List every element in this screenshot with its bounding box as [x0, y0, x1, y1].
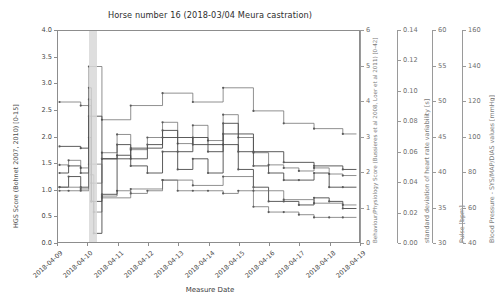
series-line: [60, 67, 357, 134]
data-point: [80, 104, 82, 106]
data-point: [252, 151, 254, 153]
data-point: [267, 200, 269, 202]
data-point: [283, 211, 285, 213]
pulse-tick-label: 30: [438, 239, 446, 247]
hrv-tick-label: 0.12: [403, 56, 418, 64]
plot-area: [57, 30, 360, 243]
behaviour-tick-label: 2: [366, 168, 370, 176]
data-point: [313, 165, 315, 167]
data-point: [298, 214, 300, 216]
data-point: [313, 216, 315, 218]
hrv-tick-mark: [398, 30, 401, 31]
data-point: [192, 124, 194, 126]
bloodpressure-tick-label: 140: [468, 62, 481, 70]
data-point: [177, 151, 179, 153]
data-point: [130, 188, 132, 190]
data-point: [313, 167, 315, 169]
behaviour-tick-mark: [361, 66, 364, 67]
date-tick-mark: [299, 243, 300, 246]
hrv-tick-label: 0.02: [403, 209, 418, 217]
bloodpressure-tick-label: 80: [468, 168, 476, 176]
behaviour-tick-mark: [361, 30, 364, 31]
hrv-tick-label: 0.10: [403, 87, 418, 95]
data-point: [237, 168, 239, 170]
data-point: [267, 211, 269, 213]
hgs-tick-label: 0.0: [42, 239, 53, 247]
data-point: [161, 151, 163, 153]
behaviour-tick-mark: [361, 208, 364, 209]
behaviour-tick-label: 1: [366, 204, 370, 212]
data-point: [68, 175, 70, 177]
date-tick-mark: [118, 243, 119, 246]
data-point: [130, 104, 132, 106]
data-point: [177, 168, 179, 170]
data-point: [283, 161, 285, 163]
date-tick-mark: [87, 243, 88, 246]
hgs-tick-mark: [54, 83, 57, 84]
data-point: [146, 144, 148, 146]
bloodpressure-axis-label: Blood Pressure - SYS/MAP/DIAS values [mm…: [488, 95, 495, 243]
hgs-tick-mark: [54, 216, 57, 217]
bloodpressure-tick-label: 160: [468, 26, 481, 34]
data-point: [146, 172, 148, 174]
data-point: [161, 136, 163, 138]
pulse-tick-label: 35: [438, 204, 446, 212]
bloodpressure-tick-mark: [463, 208, 466, 209]
data-point: [252, 206, 254, 208]
data-point: [222, 87, 224, 89]
data-point: [101, 197, 103, 199]
data-point: [237, 151, 239, 153]
date-tick-mark: [360, 243, 361, 246]
behaviour-tick-label: 6: [366, 26, 370, 34]
data-point: [192, 190, 194, 192]
data-point: [58, 164, 60, 166]
data-point: [222, 122, 224, 124]
data-point: [58, 101, 60, 103]
data-point: [342, 204, 344, 206]
behaviour-tick-mark: [361, 243, 364, 244]
hgs-tick-label: 2.5: [42, 106, 53, 114]
hgs-tick-label: 2.0: [42, 133, 53, 141]
hgs-tick-label: 1.0: [42, 186, 53, 194]
data-point: [313, 202, 315, 204]
chart-title: Horse number 16 (2018-03/04 Meura castra…: [0, 10, 420, 20]
data-point: [58, 172, 60, 174]
data-point: [80, 147, 82, 149]
hrv-tick-mark: [398, 243, 401, 244]
data-point: [101, 158, 103, 160]
hrv-tick-label: 0.14: [403, 26, 418, 34]
data-point: [58, 190, 60, 192]
hrv-tick-mark: [398, 60, 401, 61]
hgs-tick-label: 1.5: [42, 159, 53, 167]
data-point: [342, 186, 344, 188]
hrv-tick-mark: [398, 91, 401, 92]
data-point: [130, 165, 132, 167]
pulse-tick-label: 50: [438, 97, 446, 105]
date-tick-mark: [239, 243, 240, 246]
plot-clip: [58, 31, 359, 242]
hgs-axis-label: HGS Score (Bohnet 2007, 2010) [0-15]: [12, 104, 20, 228]
data-point: [298, 170, 300, 172]
data-point: [80, 188, 82, 190]
pulse-tick-mark: [433, 208, 436, 209]
hrv-tick-label: 0.08: [403, 117, 418, 125]
data-point: [222, 133, 224, 135]
bloodpressure-tick-label: 120: [468, 97, 481, 105]
x-axis-title: Measure Date: [150, 286, 270, 294]
bloodpressure-tick-mark: [463, 243, 466, 244]
date-tick-mark: [209, 243, 210, 246]
bloodpressure-tick-mark: [463, 66, 466, 67]
data-point: [68, 159, 70, 161]
data-point: [313, 197, 315, 199]
data-point: [80, 172, 82, 174]
data-point: [222, 192, 224, 194]
date-tick-mark: [330, 243, 331, 246]
data-point: [342, 168, 344, 170]
data-point: [267, 172, 269, 174]
behaviour-tick-mark: [361, 101, 364, 102]
data-point: [222, 114, 224, 116]
hgs-tick-label: 3.0: [42, 79, 53, 87]
hgs-tick-label: 3.5: [42, 53, 53, 61]
data-point: [252, 110, 254, 112]
